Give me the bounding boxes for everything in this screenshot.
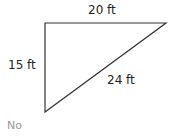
hypotenuse-label: 24 ft (107, 73, 135, 87)
right-triangle (45, 23, 166, 112)
left-side-label: 15 ft (8, 58, 36, 72)
answer-text: No (7, 119, 22, 132)
top-side-label: 20 ft (88, 3, 116, 17)
